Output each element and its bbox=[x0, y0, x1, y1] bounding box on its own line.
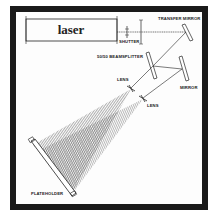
transfer-mirror bbox=[182, 24, 193, 41]
beamsplitter-label: 50/50 BEAMSPLITTER bbox=[97, 54, 143, 59]
plateholder-label: PLATEHOLDER bbox=[31, 191, 63, 196]
laser-box: laser bbox=[26, 16, 117, 44]
beam-to-mirror bbox=[153, 66, 182, 69]
lens-1-label: LENS bbox=[117, 77, 129, 82]
beamsplitter bbox=[146, 52, 157, 79]
reference-beam bbox=[143, 69, 182, 98]
holography-diagram: laser SHUTTER TRANSFER MIRROR 50/50 BEAM… bbox=[0, 0, 218, 219]
transfer-mirror-label: TRANSFER MIRROR bbox=[158, 16, 200, 21]
lens-2-label: LENS bbox=[147, 103, 159, 108]
shutter-label: SHUTTER bbox=[119, 39, 139, 44]
object-beam bbox=[131, 66, 153, 88]
mirror-label: MIRROR bbox=[180, 85, 198, 90]
mirror bbox=[179, 56, 189, 81]
laser-label: laser bbox=[58, 22, 85, 37]
